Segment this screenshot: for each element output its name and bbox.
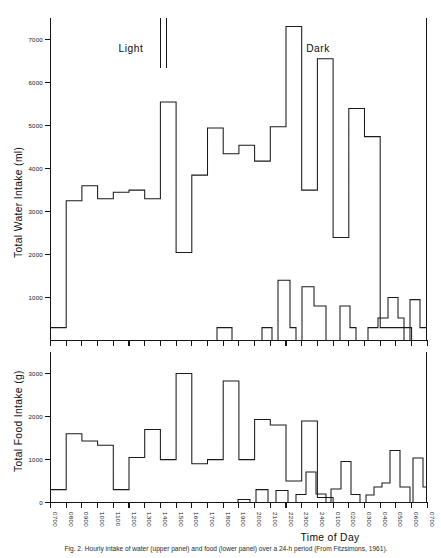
x-tick-label: 1700 <box>209 512 216 527</box>
upper-x-ticks <box>51 341 428 347</box>
x-tick-label: 0700 <box>429 512 436 527</box>
figure-panel: 1000 2000 3000 4000 5000 6000 7000 <box>0 0 441 558</box>
x-tick-label: 0600 <box>413 512 420 527</box>
x-tick-label: 0400 <box>382 512 389 527</box>
water-intake-dark-trace <box>217 280 427 340</box>
lower-y-axis-title: Total Food Intake (g) <box>13 370 24 472</box>
x-tick-label: 0700 <box>52 512 59 527</box>
upper-y-tick-label: 2000 <box>28 251 43 258</box>
x-tick-label: 2400 <box>319 512 326 527</box>
x-tick-label: 0900 <box>83 512 90 527</box>
upper-y-tick-label: 1000 <box>28 294 43 301</box>
upper-y-ticks <box>45 40 51 298</box>
lower-y-tick-label: 0 <box>39 499 43 506</box>
x-tick-label: 1900 <box>240 512 247 527</box>
upper-panel: 1000 2000 3000 4000 5000 6000 7000 <box>13 18 428 346</box>
x-tick-label: 1400 <box>162 512 169 527</box>
x-tick-label: 2100 <box>272 512 279 527</box>
lower-x-ticks <box>51 503 428 509</box>
lower-y-tick-label: 3000 <box>28 370 43 377</box>
x-tick-label: 0300 <box>366 512 373 527</box>
lower-y-tick-label: 1000 <box>28 456 43 463</box>
x-tick-label: 1800 <box>225 512 232 527</box>
lower-panel: 0 1000 2000 3000 <box>13 352 428 508</box>
dark-phase-label: Dark <box>306 43 330 54</box>
x-tick-label: 1300 <box>146 512 153 527</box>
upper-y-tick-label: 3000 <box>28 208 43 215</box>
x-tick-label: 1100 <box>115 512 122 527</box>
upper-y-tick-label: 5000 <box>28 122 43 129</box>
lower-y-tick-label: 2000 <box>28 413 43 420</box>
x-tick-label: 1200 <box>131 512 138 527</box>
x-tick-label: 1500 <box>178 512 185 527</box>
water-intake-step-trace <box>51 27 427 341</box>
upper-y-tick-label: 6000 <box>28 79 43 86</box>
x-tick-label: 0200 <box>350 512 357 527</box>
x-tick-label: 0800 <box>68 512 75 527</box>
x-tick-label: 0100 <box>335 512 342 527</box>
light-phase-label: Light <box>119 43 144 54</box>
x-tick-label: 0500 <box>397 512 404 527</box>
upper-y-tick-labels: 1000 2000 3000 4000 5000 6000 7000 <box>28 36 43 301</box>
x-axis-title: Time of Day <box>301 532 360 543</box>
x-tick-label: 1600 <box>193 512 200 527</box>
x-tick-label: 2300 <box>303 512 310 527</box>
x-axis-tick-labels: 0700 0800 0900 1000 1100 1200 1300 1400 … <box>52 512 436 527</box>
x-tick-label: 1000 <box>99 512 106 527</box>
x-tick-label: 2000 <box>256 512 263 527</box>
upper-y-tick-label: 4000 <box>28 165 43 172</box>
figure-svg: 1000 2000 3000 4000 5000 6000 7000 <box>0 0 441 558</box>
food-intake-step-trace <box>51 374 427 503</box>
x-tick-label: 2200 <box>288 512 295 527</box>
food-intake-dark-trace <box>238 451 427 503</box>
lower-y-ticks <box>45 374 51 503</box>
figure-caption: Fig. 2. Hourly intake of water (upper pa… <box>26 545 426 553</box>
lower-y-tick-labels: 0 1000 2000 3000 <box>28 370 43 506</box>
upper-y-tick-label: 7000 <box>28 36 43 43</box>
upper-y-axis-title: Total Water Intake (ml) <box>13 147 24 258</box>
